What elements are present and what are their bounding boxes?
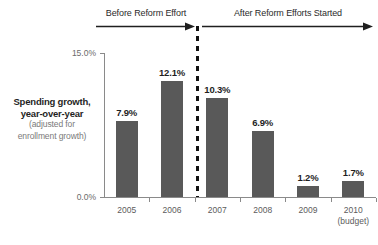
bar-value-label-2008: 6.9% <box>239 117 287 128</box>
bar-2008 <box>252 131 274 197</box>
bar-value-label-2005: 7.9% <box>103 107 151 118</box>
y-axis-title-line2: year-over-year <box>4 108 100 120</box>
annotation-after-reform-label: After Reform Efforts Started <box>200 8 376 19</box>
x-axis-tick-3 <box>240 198 241 202</box>
x-axis-tick-2 <box>195 198 196 202</box>
bar-value-label-2007: 10.3% <box>193 84 241 95</box>
bar-2009 <box>297 186 319 198</box>
bar-value-label-2006: 12.1% <box>148 67 196 78</box>
y-axis-tick-label-min: 0.0% <box>50 192 96 202</box>
x-axis-tick-4 <box>285 198 286 202</box>
y-axis-line <box>104 53 105 197</box>
x-axis-label-note-2010: (budget) <box>323 216 378 227</box>
bar-value-label-2010: 1.7% <box>329 167 377 178</box>
y-axis-title-line3: (adjusted for <box>4 119 100 131</box>
bar-2005 <box>116 121 138 197</box>
x-axis-label-year-2008: 2008 <box>253 205 272 215</box>
x-axis-label-year-2009: 2009 <box>299 205 318 215</box>
y-axis-title: Spending growth, year-over-year (adjuste… <box>4 96 100 142</box>
plot-area: 7.9%12.1%10.3%6.9%1.2%1.7% <box>104 53 376 197</box>
x-axis-tick-6 <box>376 198 377 202</box>
bar-value-label-2009: 1.2% <box>284 172 332 183</box>
annotation-after-reform-arrow <box>202 22 374 31</box>
annotation-after-reform: After Reform Efforts Started <box>200 8 376 19</box>
x-axis-label-year-2007: 2007 <box>208 205 227 215</box>
y-axis-title-line4: enrollment growth) <box>4 131 100 143</box>
annotation-before-reform: Before Reform Effort <box>96 8 196 19</box>
bar-chart: Before Reform Effort After Reform Effort… <box>0 0 378 245</box>
bar-2010 <box>342 181 364 197</box>
x-axis-tick-5 <box>331 198 332 202</box>
annotation-before-reform-label: Before Reform Effort <box>96 8 196 19</box>
y-axis-tick-max <box>100 53 105 54</box>
y-axis-title-line1: Spending growth, <box>4 96 100 108</box>
x-axis-label-year-2010: 2010 <box>344 205 363 215</box>
bar-2007 <box>206 98 228 197</box>
x-axis-tick-1 <box>149 198 150 202</box>
x-axis-label-2010: 2010(budget) <box>323 205 378 227</box>
bar-2006 <box>161 81 183 197</box>
annotation-before-reform-arrow <box>96 22 196 31</box>
x-axis-label-year-2005: 2005 <box>117 205 136 215</box>
x-axis-label-year-2006: 2006 <box>163 205 182 215</box>
y-axis-tick-label-max: 15.0% <box>50 48 96 58</box>
